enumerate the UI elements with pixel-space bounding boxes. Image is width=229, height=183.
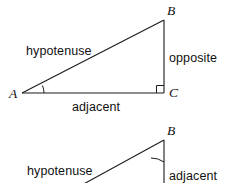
upper-side-label-hypotenuse: hypotenuse: [26, 45, 92, 58]
upper-side-label-adjacent: adjacent: [72, 101, 120, 114]
lower-angle-arc-b: [151, 158, 164, 162]
upper-vertex-label-c: C: [169, 86, 178, 100]
upper-right-angle-marker: [157, 86, 165, 94]
upper-vertex-label-b: B: [167, 4, 175, 18]
upper-vertex-label-a: A: [9, 87, 17, 101]
triangle-line-art: [0, 0, 229, 183]
lower-vertex-label-b: B: [167, 124, 175, 138]
lower-side-label-hypotenuse: hypotenuse: [27, 165, 93, 178]
upper-angle-arc-a: [43, 86, 45, 94]
lower-side-label-adjacent: adjacent: [169, 170, 217, 183]
trigonometry-figure: hypotenuse opposite adjacent B A C hypot…: [0, 0, 229, 183]
upper-side-label-opposite: opposite: [169, 52, 217, 65]
